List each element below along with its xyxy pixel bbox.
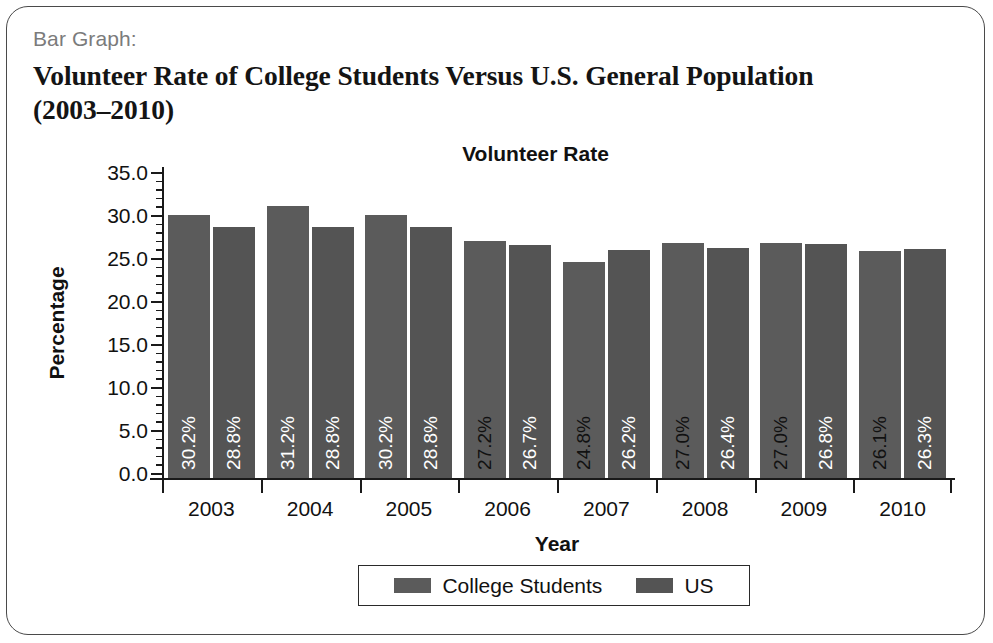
legend-label: US <box>684 574 713 598</box>
x-tick-label: 2007 <box>583 497 630 521</box>
y-axis-tick-labels: 0.05.010.015.020.025.030.035.0 <box>64 167 148 480</box>
y-tick-label: 25.0 <box>70 247 148 271</box>
y-major-tick <box>151 344 162 346</box>
x-axis-tick-labels: 20032004200520062007200820092010 <box>162 497 952 527</box>
bar-value-label: 28.8% <box>322 416 344 470</box>
x-tick <box>656 480 658 493</box>
y-major-tick <box>151 258 162 260</box>
bar: 28.8% <box>410 227 452 478</box>
y-tick-label: 20.0 <box>70 290 148 314</box>
bar-value-label: 31.2% <box>277 416 299 470</box>
y-tick-label: 30.0 <box>70 204 148 228</box>
bar-chart: Volunteer Rate 0.05.010.015.020.025.030.… <box>7 137 986 632</box>
bar-value-label: 28.8% <box>420 416 442 470</box>
x-axis-title: Year <box>162 532 952 556</box>
legend-entry[interactable]: College Students <box>394 574 602 598</box>
legend-entry[interactable]: US <box>636 574 713 598</box>
bar-value-label: 30.2% <box>375 416 397 470</box>
x-tick-label: 2003 <box>188 497 235 521</box>
bar-value-label: 27.2% <box>474 416 496 470</box>
bar-value-label: 26.7% <box>519 416 541 470</box>
y-major-tick <box>151 301 162 303</box>
bar: 26.3% <box>904 249 946 478</box>
bar: 26.4% <box>707 248 749 478</box>
bar: 26.7% <box>509 245 551 478</box>
y-tick-label: 5.0 <box>70 419 148 443</box>
bar-value-label: 26.1% <box>869 416 891 470</box>
y-major-tick <box>151 172 162 174</box>
page-title: Volunteer Rate of College Students Versu… <box>33 59 863 126</box>
x-tick <box>950 480 952 493</box>
bar: 27.2% <box>464 241 506 478</box>
x-tick-label: 2010 <box>879 497 926 521</box>
x-tick <box>162 480 164 493</box>
plot-area: 30.2%28.8%31.2%28.8%30.2%28.8%27.2%26.7%… <box>162 173 952 478</box>
y-tick-label: 15.0 <box>70 333 148 357</box>
legend-label: College Students <box>442 574 602 598</box>
bar-value-label: 30.2% <box>178 416 200 470</box>
y-tick-label: 35.0 <box>70 161 148 185</box>
bar: 27.0% <box>662 243 704 478</box>
bar: 26.8% <box>805 244 847 478</box>
x-tick <box>458 480 460 493</box>
bar: 30.2% <box>168 215 210 478</box>
x-tick-label: 2005 <box>386 497 433 521</box>
y-major-tick <box>151 473 162 475</box>
y-major-tick <box>151 430 162 432</box>
y-major-tick <box>151 215 162 217</box>
x-tick <box>853 480 855 493</box>
bar-value-label: 26.4% <box>717 416 739 470</box>
bar-value-label: 26.3% <box>914 416 936 470</box>
bar: 27.0% <box>760 243 802 478</box>
bar: 28.8% <box>213 227 255 478</box>
bar-value-label: 26.8% <box>815 416 837 470</box>
chart-legend: College StudentsUS <box>358 565 750 606</box>
x-tick-label: 2008 <box>682 497 729 521</box>
bar-value-label: 24.8% <box>573 416 595 470</box>
bar-value-label: 28.8% <box>223 416 245 470</box>
x-tick-label: 2009 <box>781 497 828 521</box>
x-tick <box>261 480 263 493</box>
chart-title: Volunteer Rate <box>7 142 986 166</box>
y-major-tick <box>151 387 162 389</box>
x-tick <box>755 480 757 493</box>
bar: 26.2% <box>608 250 650 478</box>
x-tick <box>360 480 362 493</box>
x-tick-label: 2006 <box>484 497 531 521</box>
y-axis-title: Percentage <box>45 266 69 379</box>
bar: 26.1% <box>859 251 901 478</box>
bar: 31.2% <box>267 206 309 478</box>
bar-value-label: 26.2% <box>618 416 640 470</box>
bar-value-label: 27.0% <box>770 416 792 470</box>
bar: 24.8% <box>563 262 605 478</box>
y-axis-ticks <box>150 167 162 480</box>
x-tick <box>557 480 559 493</box>
x-axis-ticks <box>162 480 952 494</box>
legend-swatch-icon <box>394 578 431 593</box>
y-tick-label: 10.0 <box>70 376 148 400</box>
graph-card: Bar Graph: Volunteer Rate of College Stu… <box>6 6 985 635</box>
legend-swatch-icon <box>636 578 673 593</box>
kicker-label: Bar Graph: <box>33 27 137 51</box>
bar-value-label: 27.0% <box>672 416 694 470</box>
y-tick-label: 0.0 <box>70 462 148 486</box>
x-tick-label: 2004 <box>287 497 334 521</box>
bar: 30.2% <box>365 215 407 478</box>
bar: 28.8% <box>312 227 354 478</box>
